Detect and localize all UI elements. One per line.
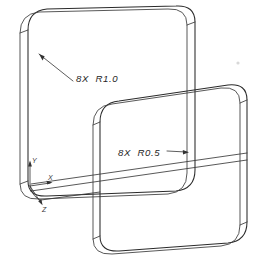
front-plate-near-face-outline xyxy=(93,88,240,254)
y-axis-label: Y xyxy=(32,157,38,164)
radius-callout-2-arrowhead xyxy=(183,150,189,155)
radius-callout-1: 8X R1.0 xyxy=(39,54,118,84)
technical-drawing-canvas: 8X R1.0 8X R0.5 Y X Z xyxy=(0,0,258,262)
coordinate-axis-triad: Y X Z xyxy=(28,157,53,213)
front-plate xyxy=(93,85,247,254)
front-plate-thickness-edge-topright xyxy=(240,100,247,103)
front-plate-thickness-edge-topleft xyxy=(93,122,100,125)
back-plate xyxy=(20,6,195,199)
radius-callout-2: 8X R0.5 xyxy=(118,147,189,158)
projection-line-bottom-lower xyxy=(31,160,247,191)
cad-drawing-svg: 8X R1.0 8X R0.5 Y X Z xyxy=(0,0,258,262)
radius-callout-2-text: 8X R0.5 xyxy=(118,147,160,158)
front-plate-thickness-edge-bottomleft xyxy=(93,236,100,239)
radius-callout-1-leader-line xyxy=(39,54,73,81)
x-axis-label: X xyxy=(47,174,53,181)
z-axis-label: Z xyxy=(41,206,47,213)
radius-callout-1-arrowhead xyxy=(39,54,45,60)
front-plate-far-face-outline xyxy=(100,85,247,251)
z-axis-line xyxy=(30,186,41,203)
back-plate-outer-face-outline xyxy=(28,6,195,196)
radius-callout-1-text: 8X R1.0 xyxy=(76,73,118,84)
back-plate-thickness-edge-topright xyxy=(187,22,195,25)
back-plate-thickness-edge-bottomleft xyxy=(20,181,28,184)
scan-artifact-speck xyxy=(236,61,239,64)
front-plate-thickness-edge-bottomright xyxy=(240,222,247,225)
back-plate-near-face-outline xyxy=(20,9,187,199)
back-plate-thickness-edge-topleft xyxy=(20,30,28,33)
